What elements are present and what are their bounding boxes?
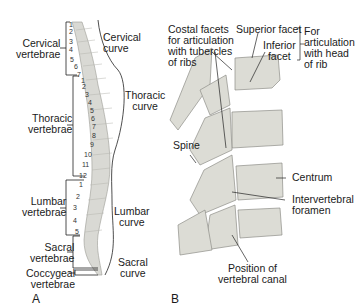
- cervical-number: 5: [70, 56, 74, 63]
- thoracic-number: 10: [84, 151, 92, 158]
- label-centrum: Centrum: [292, 172, 332, 183]
- label-costal-facets: Costal facets for articulation with tube…: [168, 24, 234, 68]
- thoracic-number: 12: [79, 172, 87, 179]
- lumbar-number: 3: [73, 204, 77, 211]
- label-sacral-curve: Sacral curve: [118, 257, 148, 279]
- panel-letter-b: B: [171, 292, 179, 306]
- label-cervical-vertebrae: Cervical vertebrae: [16, 38, 60, 60]
- vertebrae-b: [170, 48, 283, 255]
- lumbar-number: 2: [76, 193, 80, 200]
- thoracic-number: 5: [90, 107, 94, 114]
- cervical-number: 2: [69, 28, 73, 35]
- thoracic-number: 6: [91, 115, 95, 122]
- thoracic-number: 4: [88, 99, 92, 106]
- spine-column: [72, 22, 110, 275]
- label-thoracic-curve: Thoracic curve: [125, 90, 165, 112]
- label-cervical-curve: Cervical curve: [103, 32, 141, 54]
- label-inferior-facet: Inferior facet: [263, 40, 296, 62]
- lumbar-number: 1: [79, 181, 83, 188]
- thoracic-number: 9: [90, 141, 94, 148]
- label-lumbar-curve: Lumbar curve: [114, 206, 150, 228]
- thoracic-number: 11: [82, 161, 89, 168]
- thoracic-number: 3: [85, 91, 89, 98]
- label-superior-facet: Superior facet: [236, 24, 301, 35]
- label-vertebral-canal: Position of vertebral canal: [218, 263, 287, 285]
- cervical-number: 3: [69, 38, 73, 45]
- thoracic-number: 2: [82, 83, 86, 90]
- cervical-number: 6: [74, 63, 78, 70]
- panel-letter-a: A: [32, 292, 40, 306]
- lumbar-number: 5: [75, 228, 79, 235]
- lumbar-number: 4: [73, 217, 77, 224]
- label-for-articulation-head-of-rib: For articulation with head of rib: [304, 26, 355, 70]
- label-intervertebral-foramen: Intervertebral foramen: [292, 194, 354, 216]
- cervical-number: 4: [69, 46, 73, 53]
- thoracic-number: 8: [92, 132, 96, 139]
- cervical-number: 1: [69, 21, 73, 28]
- label-lumbar-vertebrae: Lumbar vertebrae: [22, 196, 66, 218]
- label-thoracic-vertebrae: Thoracic vertebrae: [28, 113, 72, 135]
- label-sacral-vertebrae: Sacral vertebrae: [30, 242, 74, 264]
- label-spine: Spine: [173, 140, 200, 151]
- thoracic-number: 7: [92, 123, 96, 130]
- label-coccygeal-vertebrae: Coccygeal vertebrae: [26, 268, 75, 290]
